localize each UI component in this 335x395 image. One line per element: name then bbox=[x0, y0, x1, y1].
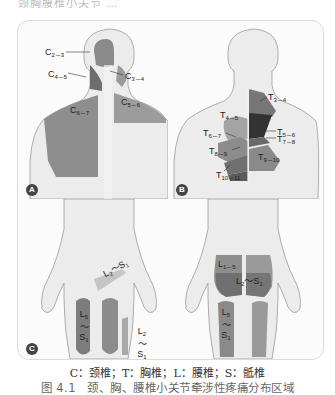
panel-badge-c: C bbox=[26, 343, 38, 355]
label-t3-4: T3－4 bbox=[268, 93, 286, 103]
figure-caption: 图 4.1 颈、胸、腰椎小关节牵涉性疼痛分布区域 bbox=[0, 379, 335, 395]
lower-body-figures bbox=[18, 199, 323, 359]
label-c4-5: C4－5 bbox=[48, 70, 67, 80]
panel-a-cervical: C2－3 C4－5 C3－4 C6－7 C5－6 A bbox=[18, 21, 168, 199]
cropped-header-text: 颈胸腰椎小关节 … bbox=[18, 0, 119, 10]
upper-back-figure bbox=[18, 21, 168, 199]
label-front-thigh-l2-s1: L2～S1 bbox=[137, 326, 147, 360]
label-back-lumbar-l1-5: L1－5 bbox=[218, 260, 236, 270]
panel-b-thoracic: T3－4 T4－5 T6－7 T5－6 T7－8 T8－9 T9－10 T10－… bbox=[168, 21, 323, 199]
legend-text: C：颈椎；T：胸椎；L：腰椎；S：骶椎 bbox=[0, 364, 335, 380]
label-t10-11: T10－11 bbox=[216, 171, 240, 181]
label-t4-5: T4－5 bbox=[220, 111, 238, 121]
label-back-thigh-l5-s1: L5～S1 bbox=[221, 307, 231, 343]
label-t9-10: T9－10 bbox=[258, 153, 280, 163]
panel-badge-a: A bbox=[26, 184, 38, 196]
label-t8-9: T8－9 bbox=[209, 147, 227, 157]
panel-c-lumbar: L2～S1 L5～S1 L2～S1 L1－5 L2～S1 L5～S1 C bbox=[18, 199, 323, 359]
label-c2-3: C2－3 bbox=[45, 48, 64, 58]
label-t7-8: T7－8 bbox=[277, 135, 295, 145]
label-t6-7: T6－7 bbox=[203, 129, 221, 139]
back-figure bbox=[168, 21, 323, 199]
label-back-buttock-l2-s1: L2～S1 bbox=[236, 277, 263, 287]
label-c6-7: C6－7 bbox=[70, 106, 89, 116]
panel-badge-b: B bbox=[176, 184, 188, 196]
figure-frame: C2－3 C4－5 C3－4 C6－7 C5－6 A T3－4 T4－5 T6－… bbox=[17, 20, 324, 360]
label-c5-6: C5－6 bbox=[121, 98, 140, 108]
label-c3-4: C3－4 bbox=[125, 72, 144, 82]
label-front-thigh-l5-s1: L5～S1 bbox=[79, 309, 89, 345]
